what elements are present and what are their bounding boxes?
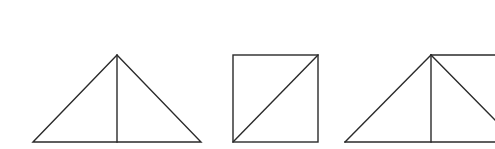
figure-triangle-with-extension [345,55,495,142]
square-diagonal [233,55,318,142]
figure-square-with-diagonal [233,55,318,142]
right-diagonal [431,55,495,121]
diagram-canvas [0,0,495,149]
figure-triangle-with-altitude [33,55,201,142]
left-edge [345,55,431,142]
